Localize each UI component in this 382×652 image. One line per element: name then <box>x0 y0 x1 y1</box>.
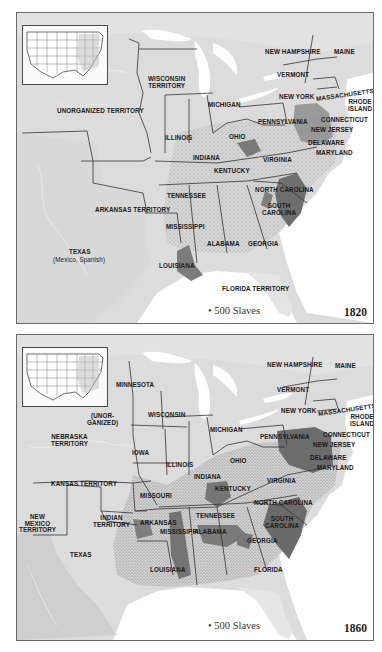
label-mississippi: MISSISSIPPI <box>166 224 205 231</box>
label-delaware: DELAWARE <box>310 455 346 462</box>
label-arkansas: ARKANSAS <box>140 520 176 527</box>
label-new-hampshire: NEW HAMPSHIRE <box>265 49 321 56</box>
label-maine: MAINE <box>334 49 355 56</box>
label-maine: MAINE <box>335 363 356 370</box>
label-rhode-island: RHODE ISLAND <box>350 414 374 427</box>
legend-500-slaves: • 500 Slaves <box>208 620 260 631</box>
label-iowa: IOWA <box>132 450 149 457</box>
label-new-hampshire: NEW HAMPSHIRE <box>267 362 323 369</box>
map-1820: WISCONSIN TERRITORY UNORGANIZED TERRITOR… <box>16 12 374 324</box>
label-louisiana: LOUISIANA <box>150 567 186 574</box>
label-tennessee: TENNESSEE <box>167 193 206 200</box>
label-michigan: MICHIGAN <box>210 427 243 434</box>
label-florida-territory: FLORIDA TERRITORY <box>222 286 289 293</box>
label-new-york: NEW YORK <box>279 94 314 101</box>
label-south-carolina: SOUTH CAROLINA <box>265 516 299 529</box>
label-georgia: GEORGIA <box>248 241 278 248</box>
label-kentucky: KENTUCKY <box>215 486 251 493</box>
label-pennsylvania: PENNSYLVANIA <box>260 434 310 441</box>
label-pennsylvania: PENNSYLVANIA <box>258 119 308 126</box>
label-new-mexico-territory: NEW MEXICO TERRITORY <box>19 514 56 534</box>
label-nebraska-territory: NEBRASKA TERRITORY <box>51 434 88 447</box>
label-ohio: OHIO <box>230 458 247 465</box>
label-wisconsin: WISCONSIN <box>148 412 185 419</box>
map-year: 1860 <box>344 622 367 634</box>
label-texas: TEXAS <box>69 249 91 256</box>
label-georgia: GEORGIA <box>247 538 277 545</box>
label-florida: FLORIDA <box>254 567 283 574</box>
legend-500-slaves: • 500 Slaves <box>208 305 260 316</box>
label-tennessee: TENNESSEE <box>196 513 235 520</box>
us-locator-inset-map <box>22 25 108 85</box>
label-indian-territory: INDIAN TERRITORY <box>93 515 130 528</box>
label-new-jersey: NEW JERSEY <box>311 127 353 134</box>
label-vermont: VERMONT <box>277 72 309 79</box>
label-kansas-territory: KANSAS TERRITORY <box>51 481 117 488</box>
label-delaware: DELAWARE <box>308 140 344 147</box>
label-virginia: VIRGINIA <box>263 157 292 164</box>
map-1860: MINNESOTA (UNOR- GANIZED) NEBRASKA TERRI… <box>16 334 374 641</box>
label-ohio: OHIO <box>229 134 246 141</box>
label-vermont: VERMONT <box>277 387 309 394</box>
label-rhode-island: RHODE ISLAND <box>348 99 372 112</box>
label-wisconsin-territory: WISCONSIN TERRITORY <box>148 76 185 89</box>
label-indiana: INDIANA <box>193 155 220 162</box>
label-maryland: MARYLAND <box>316 150 353 157</box>
label-illinois: ILLINOIS <box>165 135 192 142</box>
label-alabama: ALABAMA <box>207 241 240 248</box>
label-new-jersey: NEW JERSEY <box>313 442 355 449</box>
label-michigan: MICHIGAN <box>208 102 241 109</box>
label-unorganized-territory: UNORGANIZED TERRITORY <box>57 108 144 115</box>
label-maryland: MARYLAND <box>317 465 354 472</box>
label-connecticut: CONNECTICUT <box>321 117 368 124</box>
label-south-carolina: SOUTH CAROLINA <box>262 203 296 216</box>
label-texas-note: (Mexico, Spanish) <box>53 257 105 264</box>
label-arkansas-territory: ARKANSAS TERRITORY <box>95 207 170 214</box>
map-year: 1820 <box>344 306 367 318</box>
label-unorganized: (UNOR- GANIZED) <box>87 413 118 426</box>
label-north-carolina: NORTH CAROLINA <box>254 500 313 507</box>
label-louisiana: LOUISIANA <box>159 263 195 270</box>
label-texas: TEXAS <box>70 552 92 559</box>
label-indiana: INDIANA <box>194 474 221 481</box>
label-kentucky: KENTUCKY <box>214 168 250 175</box>
label-virginia: VIRGINIA <box>267 478 296 485</box>
label-new-york: NEW YORK <box>281 408 316 415</box>
label-connecticut: CONNECTICUT <box>323 432 370 439</box>
label-mississippi: MISSISSIPPI <box>160 529 199 536</box>
label-illinois: ILLINOIS <box>166 462 193 469</box>
us-locator-inset-map <box>22 347 108 407</box>
label-minnesota: MINNESOTA <box>116 382 154 389</box>
label-missouri: MISSOURI <box>140 493 172 500</box>
label-north-carolina: NORTH CAROLINA <box>255 187 314 194</box>
